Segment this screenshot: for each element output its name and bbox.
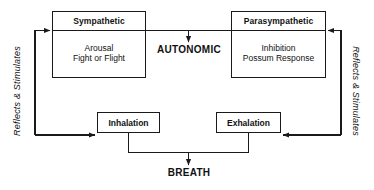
node-sympathetic[interactable]: Sympathetic Arousal Fight or Flight: [52, 11, 146, 78]
node-parasympathetic-header: Parasympathetic: [232, 12, 325, 31]
node-sympathetic-body-line-1: Arousal: [85, 43, 114, 53]
side-label-right-reflects-stimulates: Reflects & Stimulates: [351, 31, 361, 151]
node-inhalation[interactable]: Inhalation: [97, 112, 160, 133]
node-sympathetic-body: Arousal Fight or Flight: [53, 31, 145, 77]
connector-exhalation-to-breath-bus: [189, 133, 249, 153]
connector-left-loop-up-to-sympathetic: [35, 31, 50, 136]
diagram-canvas: Sympathetic Arousal Fight or Flight Para…: [0, 0, 374, 190]
caption-breath: BREATH: [155, 167, 223, 178]
node-exhalation[interactable]: Exhalation: [216, 112, 281, 133]
node-sympathetic-header: Sympathetic: [53, 12, 145, 31]
node-parasympathetic-body-line-2: Possum Response: [243, 53, 314, 63]
node-sympathetic-body-line-2: Fight or Flight: [73, 53, 125, 63]
caption-autonomic: AUTONOMIC: [148, 44, 230, 55]
node-parasympathetic-body-line-1: Inhibition: [261, 43, 295, 53]
side-label-left-reflects-stimulates: Reflects & Stimulates: [12, 31, 22, 151]
node-parasympathetic-body: Inhibition Possum Response: [232, 31, 325, 77]
connector-inhalation-to-breath-bus: [129, 133, 189, 153]
node-parasympathetic[interactable]: Parasympathetic Inhibition Possum Respon…: [231, 11, 326, 78]
connector-right-loop-up-to-parasympathetic: [328, 31, 341, 136]
